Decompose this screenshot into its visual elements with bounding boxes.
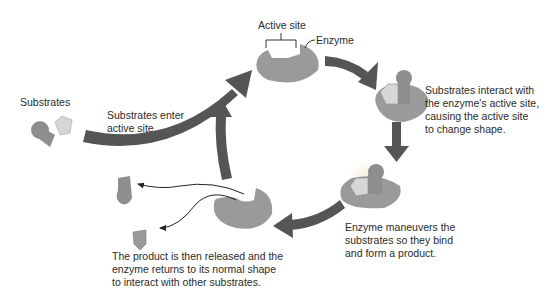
enzyme-pointer — [305, 40, 315, 48]
substrate-dark — [31, 121, 55, 147]
active-site-bracket — [266, 33, 296, 48]
arrow-to-product — [384, 122, 409, 162]
label-step3: Enzyme maneuvers the substrates so they … — [345, 221, 455, 260]
release-arrow-upper — [138, 184, 244, 194]
product-released-dark — [117, 176, 132, 204]
label-active-site: Active site — [258, 19, 306, 32]
label-step4: The product is then released and the enz… — [112, 250, 283, 289]
product-released-light — [133, 230, 146, 250]
arrow-to-complex — [325, 56, 378, 90]
label-substrates: Substrates — [20, 96, 70, 109]
substrate-light — [55, 116, 72, 135]
label-step2: Substrates interact with the enzyme's ac… — [425, 84, 539, 136]
enzyme-released — [214, 188, 272, 229]
enzyme-empty — [256, 44, 318, 82]
label-enzyme: Enzyme — [316, 34, 354, 47]
arrow-to-release — [273, 200, 345, 238]
enzyme-substrate-complex — [375, 70, 428, 122]
label-step1: Substrates enter active site. — [107, 109, 184, 135]
